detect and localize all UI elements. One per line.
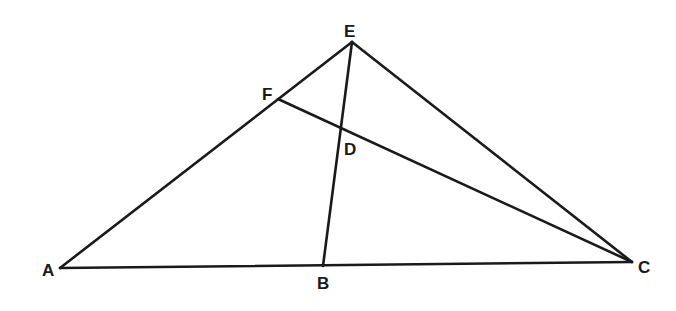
segment-AE [60,42,352,268]
geometry-diagram: A B C D E F [0,0,676,311]
segment-AC [60,262,632,268]
diagram-svg: A B C D E F [0,0,676,311]
vertex-label-c: C [638,258,650,277]
vertex-label-f: F [262,85,272,104]
vertex-label-a: A [42,261,54,280]
labels-group: A B C D E F [42,22,650,293]
vertex-label-b: B [317,274,329,293]
vertex-label-d: D [344,140,356,159]
vertex-label-e: E [344,22,355,41]
